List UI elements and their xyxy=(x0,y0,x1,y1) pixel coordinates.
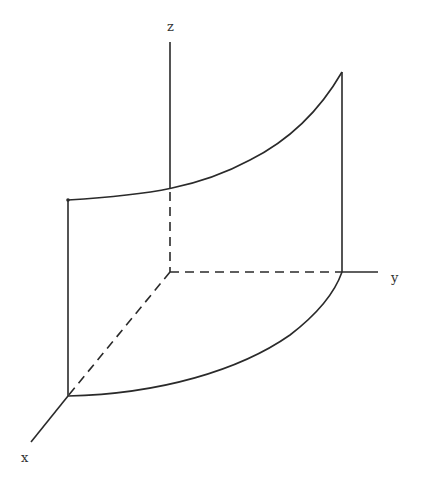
x-axis xyxy=(31,272,170,442)
diagram-canvas: z y x xyxy=(0,0,423,485)
x-axis-visible xyxy=(31,396,68,442)
top-curve xyxy=(68,72,342,200)
bottom-curve xyxy=(68,272,342,396)
x-axis-hidden xyxy=(68,272,170,396)
corner-point xyxy=(66,198,70,202)
z-axis-label: z xyxy=(167,19,174,34)
y-axis-label: y xyxy=(390,270,399,285)
x-axis-label: x xyxy=(21,450,29,465)
